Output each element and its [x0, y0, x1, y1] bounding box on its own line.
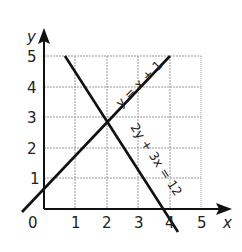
y-tick-1: 1: [30, 170, 40, 188]
x-tick-3: 3: [134, 214, 144, 232]
y-axis-label: y: [26, 28, 37, 46]
y-tick-4: 4: [27, 79, 37, 97]
x-tick-0: 0: [28, 214, 38, 232]
x-axis-label: x: [222, 214, 232, 232]
y-tick-3: 3: [27, 109, 37, 127]
x-tick-2: 2: [102, 214, 112, 232]
y-tick-5: 5: [27, 48, 37, 66]
x-tick-1: 1: [71, 214, 81, 232]
x-tick-4: 4: [165, 214, 175, 232]
line-2y-plus-3x-equals-12: [65, 56, 178, 232]
label-line-2: 2y + 3x = 12: [127, 120, 185, 198]
label-line-1: y = x + 1: [113, 57, 166, 110]
linear-equations-graph: 5 4 3 2 1 0 1 2 3 4 5 x y y = x + 1 2y +…: [0, 0, 242, 252]
x-tick-5: 5: [197, 214, 207, 232]
y-tick-2: 2: [27, 140, 37, 158]
